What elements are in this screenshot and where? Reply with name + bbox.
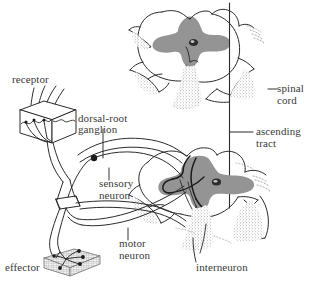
label-receptor: receptor xyxy=(12,74,49,86)
label-dorsal-root-ganglion-line2: ganglion xyxy=(78,124,117,136)
upper-spinal-cord-cross-section xyxy=(129,9,265,109)
label-spinal-cord-line2: cord xyxy=(277,95,297,107)
label-motor-neuron-line2: neuron xyxy=(119,250,150,262)
label-spinal-cord-line1: spinal xyxy=(277,83,304,95)
skin-receptor-block xyxy=(20,86,76,143)
label-sensory-neuron-line1: sensory xyxy=(99,178,133,190)
label-sensory-neuron-line2: neuron xyxy=(99,190,130,202)
label-ascending-tract-line2: tract xyxy=(256,138,276,150)
label-effector: effector xyxy=(5,262,40,274)
label-interneuron: interneuron xyxy=(196,262,248,274)
label-motor-neuron-line1: motor xyxy=(119,238,146,250)
muscle-effector-block xyxy=(44,249,100,276)
lower-spinal-cord-cross-section xyxy=(129,148,270,251)
reflex-arc-diagram: receptor dorsal-root ganglion sensory ne… xyxy=(0,0,321,285)
label-ascending-tract-line1: ascending xyxy=(256,126,301,138)
